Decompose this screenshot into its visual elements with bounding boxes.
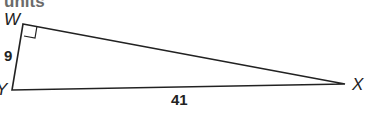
vertex-label-y: Y: [0, 80, 7, 100]
triangle-wxy: [12, 24, 345, 90]
vertex-label-x: X: [352, 75, 363, 95]
side-label-yx: 41: [171, 91, 188, 108]
right-triangle-figure: [0, 0, 376, 114]
right-angle-marker: [24, 26, 37, 38]
vertex-label-w: W: [4, 10, 20, 30]
side-label-wy: 9: [4, 47, 12, 64]
